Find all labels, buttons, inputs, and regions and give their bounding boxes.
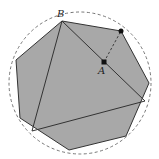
- diagram-canvas: B A: [0, 0, 159, 159]
- edge-point-marker: [119, 29, 124, 34]
- geometry-figure: [0, 0, 159, 159]
- label-a: A: [98, 66, 105, 76]
- label-b: B: [57, 9, 64, 19]
- point-a-marker: [102, 60, 107, 65]
